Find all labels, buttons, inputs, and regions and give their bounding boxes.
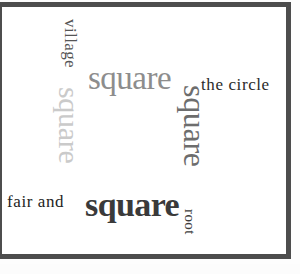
word-cloud-canvas: village square the circle square square … xyxy=(0,0,300,274)
word-square-left: square xyxy=(54,87,84,164)
word-root: root xyxy=(182,209,197,235)
word-village: village xyxy=(62,19,79,68)
word-square-right: square xyxy=(179,85,211,167)
paper-edge xyxy=(0,264,300,274)
word-square-top: square xyxy=(88,62,171,95)
word-square-bottom: square xyxy=(85,188,179,222)
word-fair-and: fair and xyxy=(7,193,64,210)
